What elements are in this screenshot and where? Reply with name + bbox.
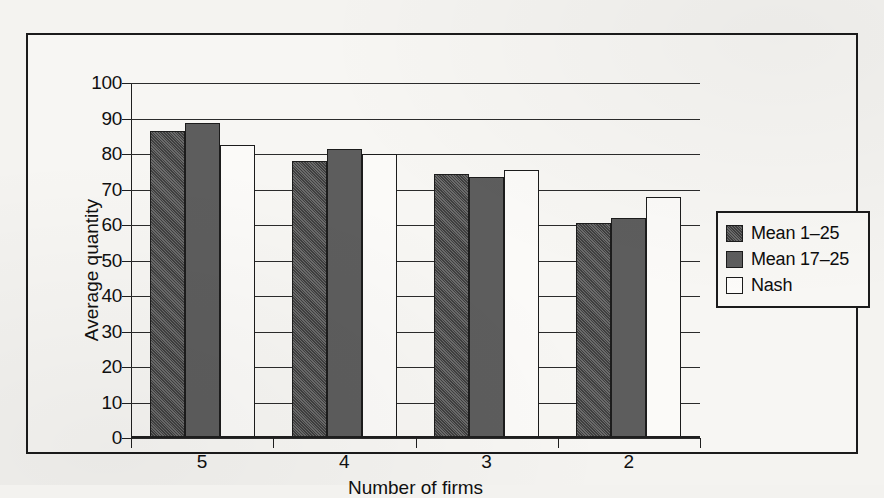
bar <box>646 197 681 438</box>
y-tick-label: 10 <box>101 392 122 414</box>
y-axis-tick <box>122 154 131 155</box>
y-axis-tick <box>122 119 131 120</box>
x-tick-label: 3 <box>481 451 492 473</box>
x-axis-tick <box>131 438 132 448</box>
y-tick-label: 70 <box>101 179 122 201</box>
bar <box>611 218 646 438</box>
x-tick-label: 4 <box>339 451 350 473</box>
bar <box>576 223 611 438</box>
legend: Mean 1–25Mean 17–25Nash <box>716 211 870 308</box>
y-axis-tick <box>122 296 131 297</box>
chart-frame: Average quantity 100 90 80 70 60 50 40 3… <box>26 33 858 454</box>
legend-item[interactable]: Mean 17–25 <box>726 246 860 272</box>
y-tick-label: 90 <box>101 108 122 130</box>
y-tick-label: 20 <box>101 356 122 378</box>
y-axis-tick <box>122 83 131 84</box>
legend-swatch-icon <box>726 225 743 242</box>
x-axis-tick <box>700 438 701 448</box>
bar-group <box>131 83 700 438</box>
y-axis-tick <box>122 261 131 262</box>
x-tick-label: 5 <box>197 451 208 473</box>
legend-item[interactable]: Mean 1–25 <box>726 220 860 246</box>
y-tick-label: 80 <box>101 143 122 165</box>
legend-item-label: Mean 17–25 <box>751 249 849 270</box>
x-axis-tick <box>558 438 559 448</box>
y-axis-tick <box>122 190 131 191</box>
y-tick-label: 100 <box>91 72 122 94</box>
x-axis-tick <box>416 438 417 448</box>
y-tick-label: 40 <box>101 285 122 307</box>
legend-item-label: Mean 1–25 <box>751 223 839 244</box>
y-tick-label: 30 <box>101 321 122 343</box>
y-tick-label: 60 <box>101 214 122 236</box>
y-axis-title: Average quantity <box>81 105 103 435</box>
y-axis-tick-labels: Average quantity 100 90 80 70 60 50 40 3… <box>66 83 122 438</box>
y-axis-tick <box>122 225 131 226</box>
legend-swatch-icon <box>726 251 743 268</box>
y-axis-tick <box>122 403 131 404</box>
legend-swatch-icon <box>726 277 743 294</box>
y-axis-tick <box>122 438 131 439</box>
y-tick-label: 0 <box>112 427 122 449</box>
x-axis-tick <box>273 438 274 448</box>
x-tick-label: 2 <box>624 451 635 473</box>
legend-item-label: Nash <box>751 275 792 296</box>
x-axis-title: Number of firms <box>131 477 700 498</box>
y-axis-tick <box>122 367 131 368</box>
y-tick-label: 50 <box>101 250 122 272</box>
y-axis-tick <box>122 332 131 333</box>
legend-item[interactable]: Nash <box>726 272 860 298</box>
plot-area: 5432 Number of firms <box>131 83 700 438</box>
